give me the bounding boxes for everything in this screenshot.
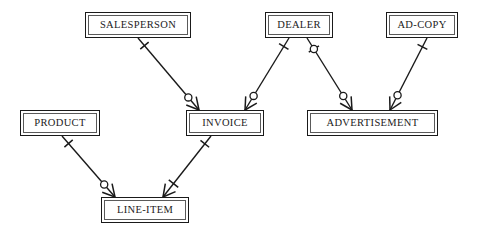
cardinality-adcopy-advertisement-to-optional-circle <box>394 92 401 99</box>
relationship-line-adcopy-advertisement[interactable] <box>390 38 427 110</box>
cardinality-dealer-advertisement-to-crowsfoot-prong <box>351 96 352 110</box>
relationship-adcopy-advertisement[interactable] <box>390 38 428 110</box>
cardinality-dealer-advertisement-from-optional-circle <box>310 45 317 52</box>
cardinality-dealer-invoice-to-optional-circle <box>250 92 257 99</box>
cardinality-product-lineitem-to-optional-circle <box>101 181 108 188</box>
cardinality-dealer-advertisement-to-optional-circle <box>340 92 347 99</box>
entity-label-salesperson: SALESPERSON <box>100 20 176 31</box>
entity-box-advertisement[interactable]: ADVERTISEMENT <box>307 110 438 136</box>
entity-box-invoice[interactable]: INVOICE <box>186 110 264 136</box>
cardinality-invoice-lineitem-from-tick <box>200 140 209 147</box>
entity-label-product: PRODUCT <box>34 118 85 129</box>
relationship-dealer-invoice[interactable] <box>245 38 289 110</box>
cardinality-adcopy-advertisement-from-tick <box>418 44 428 49</box>
entity-label-dealer: DEALER <box>277 20 321 31</box>
entity-label-lineitem: LINE-ITEM <box>117 205 173 216</box>
cardinality-dealer-invoice-from-tick <box>279 44 288 50</box>
relationship-line-product-lineitem[interactable] <box>62 136 115 197</box>
relationship-line-invoice-lineitem[interactable] <box>163 136 211 197</box>
cardinality-dealer-invoice-to-crowsfoot-prong <box>245 96 246 110</box>
cardinality-invoice-lineitem-to-tick <box>169 180 178 187</box>
entity-label-adcopy: AD-COPY <box>397 20 446 31</box>
relationship-product-lineitem[interactable] <box>62 136 115 197</box>
entity-label-invoice: INVOICE <box>202 118 248 129</box>
entity-box-lineitem[interactable]: LINE-ITEM <box>101 197 189 223</box>
relationship-dealer-advertisement[interactable] <box>307 38 352 110</box>
entity-box-dealer[interactable]: DEALER <box>265 12 333 38</box>
entity-box-adcopy[interactable]: AD-COPY <box>386 12 458 38</box>
relationship-salesperson-invoice[interactable] <box>138 38 199 110</box>
er-diagram-canvas: SALESPERSONDEALERAD-COPYPRODUCTINVOICEAD… <box>0 0 478 238</box>
cardinality-salesperson-invoice-to-optional-circle <box>185 94 192 101</box>
entity-box-product[interactable]: PRODUCT <box>20 110 100 136</box>
entity-label-advertisement: ADVERTISEMENT <box>327 118 419 129</box>
entity-box-salesperson[interactable]: SALESPERSON <box>85 12 191 38</box>
relationship-invoice-lineitem[interactable] <box>163 136 211 197</box>
